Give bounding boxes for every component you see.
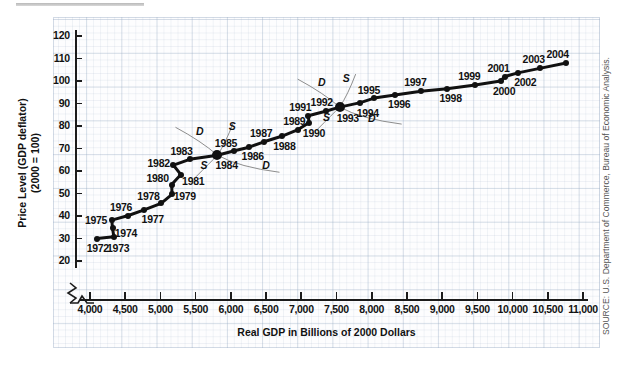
data-point-year-label: 2003: [523, 53, 545, 65]
y-tick-label: 80: [36, 119, 70, 131]
data-point-year-label: 1996: [388, 98, 410, 110]
x-tick-label: 5,500: [183, 303, 208, 315]
data-point-year-label: 1975: [85, 214, 107, 226]
y-tick-label: 20: [36, 254, 70, 266]
x-tick: [160, 292, 162, 300]
demand-curve-label: D: [318, 76, 326, 88]
y-tick: [75, 125, 82, 127]
x-tick-label: 6,500: [254, 303, 279, 315]
data-point: [170, 162, 176, 168]
data-point: [125, 213, 131, 219]
data-point-year-label: 2001: [487, 62, 509, 74]
y-tick-label: 70: [36, 142, 70, 154]
x-tick-label: 8,000: [359, 303, 384, 315]
y-tick: [75, 215, 82, 217]
data-point: [357, 100, 363, 106]
data-point: [187, 156, 193, 162]
data-point-year-label: 1991: [289, 101, 311, 113]
x-tick-label: 10,500: [533, 303, 563, 315]
x-tick: [124, 292, 126, 300]
x-tick-label: 8,500: [395, 303, 420, 315]
x-tick: [265, 292, 267, 300]
data-point-year-label: 1977: [142, 213, 164, 225]
data-point: [306, 120, 312, 126]
supply-curve-label: S: [323, 111, 330, 123]
supply-curve-label: S: [229, 120, 236, 132]
y-tick-label: 90: [36, 97, 70, 109]
x-tick: [582, 292, 584, 300]
data-point: [169, 182, 175, 188]
y-tick-label: 40: [36, 209, 70, 221]
y-tick-label: 120: [36, 29, 70, 41]
data-point-year-label: 1986: [242, 150, 264, 162]
data-point-year-label: 1979: [174, 190, 196, 202]
x-tick: [441, 292, 443, 300]
x-tick-label: 7,000: [289, 303, 314, 315]
data-point: [335, 102, 345, 112]
x-tick-label: 10,000: [497, 303, 527, 315]
supply-curve-label: S: [201, 159, 208, 171]
data-point: [231, 148, 237, 154]
data-point: [444, 86, 450, 92]
data-point: [515, 70, 521, 76]
y-tick-label: 50: [36, 187, 70, 199]
data-point-year-label: 1987: [250, 127, 272, 139]
x-tick-label: 6,000: [218, 303, 243, 315]
supply-curve-label: S: [343, 72, 350, 84]
y-tick: [75, 35, 82, 37]
x-tick-label: 7,500: [324, 303, 349, 315]
data-point: [502, 74, 508, 80]
x-tick: [406, 292, 408, 300]
x-tick: [512, 292, 514, 300]
x-tick-label: 4,500: [113, 303, 138, 315]
y-tick-label: 60: [36, 164, 70, 176]
data-point: [109, 217, 115, 223]
x-tick-label: 9,000: [430, 303, 455, 315]
data-point: [279, 133, 285, 139]
y-tick: [75, 170, 82, 172]
data-point: [563, 60, 569, 66]
data-point-year-label: 2004: [547, 48, 569, 60]
x-tick: [300, 292, 302, 300]
y-tick: [75, 103, 82, 105]
data-point-year-label: 1993: [337, 112, 359, 124]
x-tick: [371, 292, 373, 300]
data-point: [371, 95, 377, 101]
data-point-year-label: 1985: [215, 137, 237, 149]
data-point-year-label: 1983: [170, 145, 192, 157]
data-point-year-label: 1982: [148, 157, 170, 169]
demand-curve-label: D: [262, 159, 270, 171]
data-point: [472, 82, 478, 88]
y-tick-label: 30: [36, 232, 70, 244]
data-point-year-label: 1992: [311, 96, 333, 108]
demand-curve-label: D: [196, 125, 204, 137]
x-tick: [230, 292, 232, 300]
data-point-year-label: 1980: [147, 172, 169, 184]
data-point: [418, 88, 424, 94]
data-point-year-label: 2002: [514, 76, 536, 88]
x-tick: [195, 292, 197, 300]
data-point: [537, 65, 543, 71]
data-point: [295, 127, 301, 133]
data-point-year-label: 1990: [303, 127, 325, 139]
y-tick: [75, 238, 82, 240]
data-point-year-label: 1981: [182, 175, 204, 187]
x-tick: [89, 292, 91, 300]
data-point-year-label: 1978: [137, 190, 159, 202]
data-point-year-label: 1976: [110, 201, 132, 213]
y-tick: [75, 80, 82, 82]
data-point-year-label: 1998: [440, 92, 462, 104]
x-tick: [336, 292, 338, 300]
x-tick-label: 11,000: [568, 303, 598, 315]
data-point-year-label: 1995: [358, 84, 380, 96]
data-point: [392, 92, 398, 98]
x-tick-label: 4,000: [78, 303, 103, 315]
y-tick-label: 100: [36, 74, 70, 86]
data-point-year-label: 1984: [216, 159, 238, 171]
data-point: [94, 236, 100, 242]
y-tick: [75, 193, 82, 195]
data-point-year-label: 1973: [107, 242, 129, 254]
y-tick: [75, 58, 82, 60]
data-point-year-label: 1988: [273, 140, 295, 152]
data-point-year-label: 1972: [87, 242, 109, 254]
